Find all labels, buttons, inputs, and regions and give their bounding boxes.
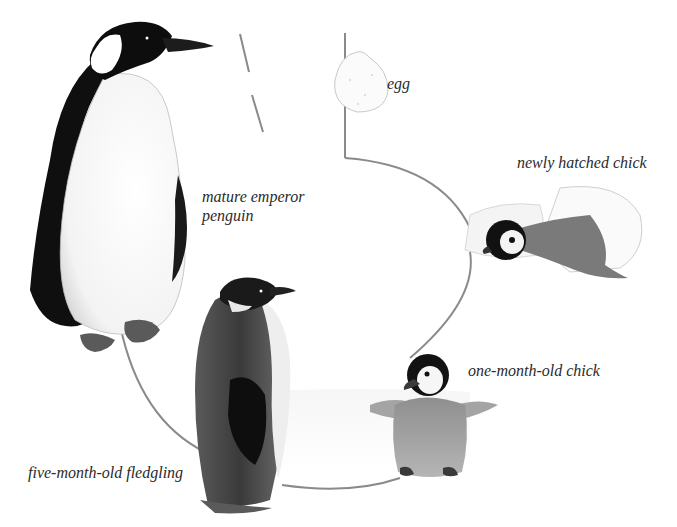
label-mature-emperor-penguin-line1: mature emperor — [202, 187, 304, 206]
hatchling-illustration — [465, 187, 642, 279]
egg-to-hatchling-curve — [345, 158, 470, 228]
label-newly-hatched-chick: newly hatched chick — [517, 153, 647, 172]
label-five-month-old-fledgling: five-month-old fledgling — [28, 463, 183, 482]
hatchling-to-chick-curve — [410, 252, 471, 358]
label-mature-emperor-penguin-line2: penguin — [202, 206, 254, 225]
label-egg: egg — [387, 74, 410, 93]
adult-to-fledgling-curve — [120, 325, 205, 452]
egg-illustration — [335, 52, 388, 112]
arrow-segment-top-left — [240, 34, 249, 72]
label-one-month-old-chick: one-month-old chick — [468, 361, 600, 380]
adult-penguin-illustration — [30, 22, 214, 352]
fledgling-illustration — [195, 278, 296, 514]
arrow-segment-lower-left — [252, 95, 263, 132]
diagram-artwork — [0, 0, 677, 527]
life-cycle-diagram: egg newly hatched chick one-month-old ch… — [0, 0, 677, 527]
fledgling-to-chick-curve — [282, 478, 400, 489]
